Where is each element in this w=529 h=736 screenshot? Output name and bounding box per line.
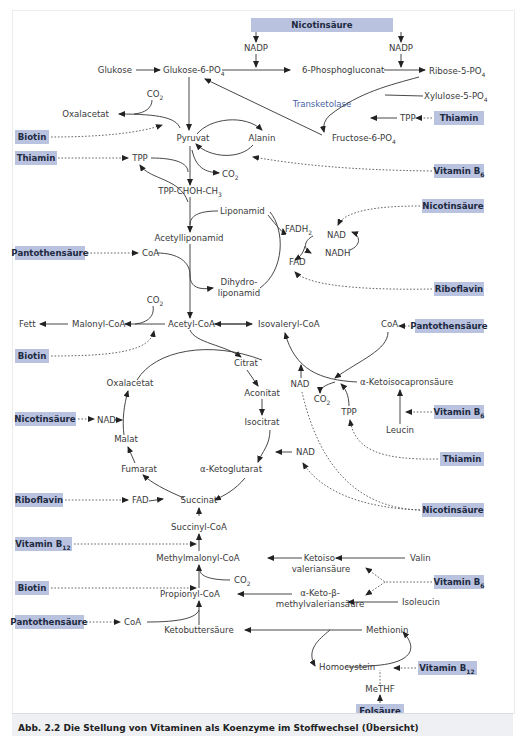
vitamin-b6-3: Vitamin B6 (433, 577, 484, 589)
label-coa-1: CoA (142, 248, 159, 258)
label-acetylliponamid: Acetylliponamid (155, 233, 224, 243)
metabolite-labels: NADP NADP Glukose Glukose-6-PO4 6-Phosph… (19, 43, 488, 694)
label-ketobuttersaeure: Ketobuttersäure (164, 625, 233, 635)
label-co2-2: CO2 (222, 169, 239, 181)
label-valin: Valin (410, 553, 431, 563)
vitamin-pantothen-3: Pantothensäure (10, 617, 87, 627)
label-coa-2: CoA (381, 319, 398, 329)
label-fumarat: Fumarat (121, 464, 157, 474)
vitamin-biotin-2: Biotin (18, 351, 47, 361)
label-nad-4: NAD (296, 447, 315, 457)
label-6-phosphogluconat: 6-Phosphogluconat (302, 65, 385, 75)
label-nadh: NADH (325, 248, 350, 258)
label-nadp-2: NADP (389, 43, 413, 53)
label-fett: Fett (19, 319, 36, 329)
label-methylmalonyl-coa: Methylmalonyl-CoA (156, 553, 240, 563)
label-succinyl-coa: Succinyl-CoA (171, 522, 227, 532)
label-co2-4: CO2 (314, 394, 331, 406)
label-tpp-ppp: TPP (399, 113, 416, 123)
label-nad-3: NAD (97, 415, 116, 425)
label-ketoglutarat: α-Ketoglutarat (200, 464, 263, 474)
label-glukose: Glukose (98, 65, 132, 75)
vitamin-biotin-3: Biotin (18, 583, 47, 593)
figure-caption: Abb. 2.2 Die Stellung von Vitaminen als … (18, 723, 419, 733)
label-leucin: Leucin (386, 425, 414, 435)
label-nad-2: NAD (291, 379, 310, 389)
vitamin-pantothen-1: Pantothensäure (11, 248, 88, 258)
label-fadh2: FADH2 (285, 224, 312, 236)
vitamin-nicotinsaeure-3: Nicotinsäure (14, 414, 76, 424)
label-xylulose-5-po4: Xylulose-5-PO4 (424, 91, 488, 103)
label-methionin: Methionin (366, 625, 408, 635)
label-co2-3: CO2 (147, 295, 164, 307)
label-tpp-1: TPP (131, 153, 148, 163)
vitamin-pantothen-2: Pantothensäure (410, 321, 487, 331)
vitamin-nicotinsaeure-top: Nicotinsäure (291, 20, 353, 30)
label-acetyl-coa: Acetyl-CoA (168, 319, 215, 329)
label-keto-beta: α-Keto-β- (300, 588, 340, 598)
label-coa-3: CoA (124, 617, 141, 627)
vitamin-b6-1: Vitamin B6 (433, 166, 484, 178)
label-malat: Malat (114, 434, 138, 444)
label-methf: MeTHF (365, 684, 394, 694)
label-malonyl-coa: Malonyl-CoA (72, 319, 126, 329)
label-oxalacetat-1: Oxalacetat (62, 109, 109, 119)
figure-caption-bar: Abb. 2.2 Die Stellung von Vitaminen als … (12, 713, 513, 736)
label-ketoiso: Ketoiso- (304, 553, 339, 563)
label-alanin: Alanin (249, 133, 276, 143)
vitamin-riboflavin-2: Riboflavin (15, 495, 63, 505)
label-nad-1: NAD (327, 230, 346, 240)
label-liponamid-2: liponamid (218, 288, 260, 298)
label-nadp-1: NADP (244, 43, 268, 53)
label-valeriansaeure: valeriansäure (292, 564, 350, 574)
label-succinat: Succinat (181, 495, 218, 505)
label-fructose-6-po4: Fructose-6-PO4 (332, 133, 396, 145)
label-ketoisocapronsaeure: α-Ketoisocapronsäure (360, 377, 453, 387)
label-glukose-6-po4: Glukose-6-PO4 (163, 65, 225, 77)
label-tpp-2: TPP (340, 407, 357, 417)
label-citrat: Citrat (234, 358, 259, 368)
label-ribose-5-po4: Ribose-5-PO4 (429, 66, 485, 78)
label-pyruvat: Pyruvat (177, 133, 211, 143)
vitamin-nicotinsaeure-2: Nicotinsäure (422, 201, 484, 211)
label-propionyl-coa: Propionyl-CoA (160, 589, 220, 599)
label-co2-5: CO2 (234, 575, 251, 587)
label-isovaleryl-coa: Isovaleryl-CoA (258, 319, 320, 329)
label-isocitrat: Isocitrat (245, 417, 281, 427)
vitamin-boxes: Nicotinsäure Thiamin Biotin Thiamin Vita… (10, 18, 487, 718)
label-aconitat: Aconitat (244, 388, 280, 398)
label-transketolase: Transketolase (292, 99, 352, 109)
vitamin-thiamin-ppp: Thiamin (440, 113, 479, 123)
label-dihydro: Dihydro- (221, 277, 258, 287)
vitamin-thiamin-2: Thiamin (443, 454, 482, 464)
label-fad-2: FAD (132, 495, 149, 505)
vitamin-biotin-1: Biotin (18, 132, 47, 142)
label-methylvaleriansaeure: methylvaleriansäure (276, 599, 364, 609)
vitamin-b6-2: Vitamin B6 (433, 407, 484, 419)
label-co2-1: CO2 (147, 89, 164, 101)
label-tpp-choh-ch3: TPP-CHOH-CH3 (157, 186, 222, 198)
label-oxalacetat-2: Oxalacetat (107, 378, 154, 388)
cofactor-dotted-lines (51, 118, 438, 684)
vitamin-thiamin-1: Thiamin (17, 153, 56, 163)
label-isoleucin: Isoleucin (402, 597, 440, 607)
label-liponamid: Liponamid (220, 206, 265, 216)
vitamin-nicotinsaeure-4: Nicotinsäure (422, 505, 484, 515)
vitamin-riboflavin-1: Riboflavin (435, 284, 483, 294)
